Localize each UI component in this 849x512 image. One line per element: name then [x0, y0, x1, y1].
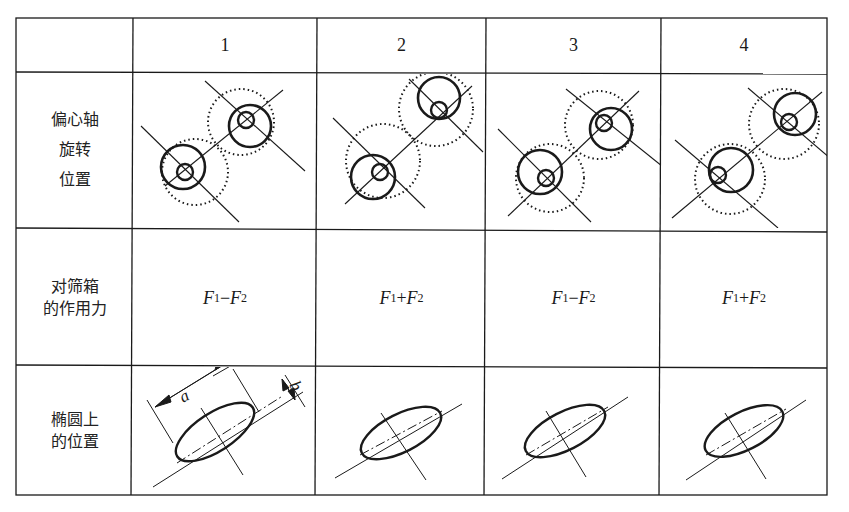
- row-label-line: 偏心轴: [51, 109, 99, 131]
- ellipse-diagram-2: [317, 367, 486, 495]
- row-label-line: 的位置: [51, 431, 99, 453]
- eccentric-shaft-diagram-4: [661, 74, 827, 228]
- eccentric-shaft-diagram-3: [486, 74, 661, 228]
- eccentric-shaft-diagram-1: [133, 74, 317, 228]
- dimension-label-a: a: [176, 386, 192, 407]
- header-corner-cell: [16, 18, 133, 72]
- force-value-4: F1+F2: [661, 230, 827, 366]
- ellipse-diagram-4: [661, 367, 827, 495]
- row-label-line: 的作用力: [43, 298, 107, 320]
- eccentric-shaft-diagram-2: [317, 74, 486, 228]
- row-label-force-on-screen-box: 对筛箱 的作用力: [16, 230, 133, 366]
- column-header-4: 4: [661, 18, 827, 72]
- column-header-1: 1: [133, 18, 317, 72]
- row-label-ellipse-position: 椭圆上 的位置: [16, 367, 133, 495]
- ellipse-diagram-3: [486, 367, 661, 495]
- row-label-line: 对筛箱: [51, 276, 99, 298]
- row-label-line: 椭圆上: [51, 409, 99, 431]
- ellipse-diagram-1: a b: [133, 367, 317, 495]
- column-header-2: 2: [317, 18, 486, 72]
- force-value-3: F1−F2: [486, 230, 661, 366]
- column-header-3: 3: [486, 18, 661, 72]
- force-value-2: F1+F2: [317, 230, 486, 366]
- row-label-line: 旋转: [59, 139, 91, 161]
- force-value-1: F1−F2: [133, 230, 317, 366]
- row-label-line: 位置: [59, 169, 91, 191]
- row-label-eccentric-position: 偏心轴 旋转 位置: [16, 72, 133, 228]
